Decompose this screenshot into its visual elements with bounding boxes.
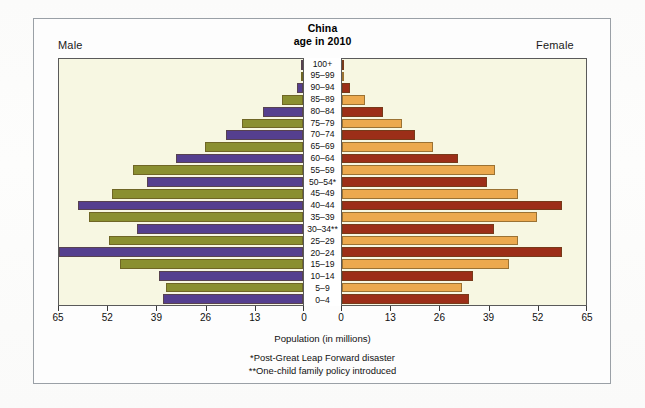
axis-tick	[107, 306, 108, 311]
age-group-label: 90–94	[304, 82, 341, 94]
bar-row	[342, 153, 586, 165]
bar-female-15–19	[342, 259, 509, 269]
bar-female-45–49	[342, 189, 518, 199]
bar-female-5–9	[342, 283, 462, 293]
axis-tick-label: 13	[385, 312, 396, 323]
bar-female-75–79	[342, 119, 402, 129]
axis-tick	[156, 306, 157, 311]
bar-row	[342, 82, 586, 94]
bar-male-85–89	[282, 95, 303, 105]
bar-row	[342, 141, 586, 153]
footnotes: *Post-Great Leap Forward disaster **One-…	[0, 352, 645, 377]
footnote-2: **One-child family policy introduced	[0, 365, 645, 378]
female-bar-rows	[342, 59, 586, 305]
bar-male-95–99	[301, 72, 303, 82]
bar-row	[59, 82, 303, 94]
footnote-1: *Post-Great Leap Forward disaster	[0, 352, 645, 365]
bar-male-45–49	[112, 189, 303, 199]
age-group-label: 10–14	[304, 271, 341, 283]
bar-row	[342, 270, 586, 282]
age-group-label: 65–69	[304, 141, 341, 153]
axis-tick-label: 65	[52, 312, 63, 323]
axis-tick-label: 52	[532, 312, 543, 323]
bar-row	[59, 235, 303, 247]
bar-male-25–29	[109, 236, 303, 246]
bar-row	[342, 94, 586, 106]
age-group-label: 5–9	[304, 282, 341, 294]
bar-male-15–19	[120, 259, 303, 269]
bar-row	[342, 59, 586, 71]
bar-row	[342, 129, 586, 141]
bar-female-90–94	[342, 83, 350, 93]
bar-row	[59, 118, 303, 130]
bar-row	[342, 282, 586, 294]
male-bar-rows	[59, 59, 303, 305]
bar-row	[59, 258, 303, 270]
bar-row	[59, 211, 303, 223]
bar-row	[59, 94, 303, 106]
male-x-axis: 65523926130	[58, 306, 304, 328]
chart-title-line1: China	[0, 22, 645, 35]
bar-female-35–39	[342, 212, 537, 222]
female-x-axis: 01326395265	[341, 306, 587, 328]
age-group-label: 25–29	[304, 235, 341, 247]
age-group-label: 70–74	[304, 129, 341, 141]
age-group-label: 0–4	[304, 294, 341, 306]
age-group-labels: 0–45–910–1415–1920–2425–2930–34**35–3940…	[304, 58, 341, 306]
age-group-label: 100+	[304, 58, 341, 70]
bar-male-70–74	[226, 130, 303, 140]
bar-row	[342, 200, 586, 212]
bar-row	[342, 293, 586, 305]
bar-row	[342, 235, 586, 247]
bar-male-55–59	[133, 165, 303, 175]
male-plot-panel	[58, 58, 304, 306]
bar-female-70–74	[342, 130, 415, 140]
bar-row	[342, 176, 586, 188]
bar-female-60–64	[342, 154, 458, 164]
axis-tick-label: 39	[151, 312, 162, 323]
bar-male-30–34	[137, 224, 303, 234]
age-group-label: 55–59	[304, 164, 341, 176]
bar-row	[59, 129, 303, 141]
age-group-label: 40–44	[304, 200, 341, 212]
bar-male-0–4	[163, 294, 303, 304]
bar-row	[342, 223, 586, 235]
bar-row	[59, 188, 303, 200]
bar-male-100+	[301, 60, 303, 70]
bar-female-65–69	[342, 142, 433, 152]
bar-row	[59, 223, 303, 235]
age-group-label: 35–39	[304, 212, 341, 224]
bar-female-10–14	[342, 271, 473, 281]
axis-tick-label: 26	[434, 312, 445, 323]
bar-male-10–14	[159, 271, 303, 281]
bar-row	[59, 71, 303, 83]
bar-male-65–69	[205, 142, 303, 152]
age-group-label: 85–89	[304, 93, 341, 105]
bar-female-0–4	[342, 294, 469, 304]
age-group-label: 60–64	[304, 152, 341, 164]
axis-tick	[538, 306, 539, 311]
bar-male-40–44	[78, 201, 303, 211]
bar-female-80–84	[342, 107, 383, 117]
axis-tick	[586, 306, 587, 311]
axis-tick-label: 26	[200, 312, 211, 323]
bar-row	[342, 246, 586, 258]
axis-tick-label: 65	[581, 312, 592, 323]
chart-title: China age in 2010	[0, 22, 645, 48]
axis-tick	[489, 306, 490, 311]
bar-male-75–79	[242, 119, 303, 129]
age-group-label: 15–19	[304, 259, 341, 271]
bar-female-20–24	[342, 247, 562, 257]
bar-female-50–54	[342, 177, 487, 187]
age-group-label: 45–49	[304, 188, 341, 200]
bar-male-80–84	[263, 107, 303, 117]
bar-row	[342, 164, 586, 176]
axis-tick-label: 52	[102, 312, 113, 323]
bar-row	[342, 71, 586, 83]
bar-row	[59, 164, 303, 176]
x-axis-title: Population (in millions)	[0, 333, 645, 344]
bar-row	[59, 153, 303, 165]
female-plot-panel	[341, 58, 587, 306]
bar-row	[59, 59, 303, 71]
axis-tick	[439, 306, 440, 311]
